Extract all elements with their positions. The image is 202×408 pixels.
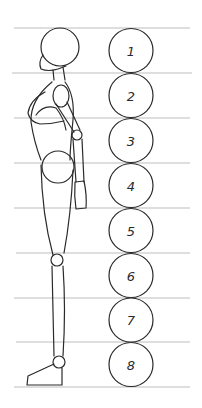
head-unit-label-6: 6 bbox=[127, 269, 135, 284]
head-unit-label-8: 8 bbox=[127, 358, 135, 373]
head bbox=[41, 28, 79, 66]
shoulder-joint bbox=[53, 85, 69, 107]
ankle-joint bbox=[53, 356, 65, 368]
knee-joint bbox=[51, 254, 63, 266]
head-unit-label-3: 3 bbox=[127, 134, 135, 149]
guide-lines bbox=[12, 28, 192, 387]
proportion-diagram: 1 2 3 4 5 6 7 8 bbox=[0, 0, 202, 408]
head-unit-label-2: 2 bbox=[127, 89, 135, 104]
figure bbox=[27, 28, 86, 385]
hand bbox=[75, 181, 87, 209]
head-unit-label-5: 5 bbox=[127, 224, 135, 239]
pelvis bbox=[42, 151, 74, 183]
head-unit-label-4: 4 bbox=[127, 179, 135, 194]
thigh bbox=[41, 165, 73, 255]
head-unit-label-7: 7 bbox=[127, 313, 136, 328]
head-unit-label-1: 1 bbox=[127, 44, 135, 59]
forearm bbox=[73, 139, 84, 182]
elbow-joint bbox=[72, 130, 82, 140]
